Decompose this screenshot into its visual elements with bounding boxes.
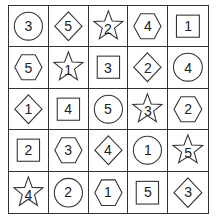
puzzle-grid: 3524151324145322341542153 [8,5,209,214]
grid-cell[interactable]: 1 [49,47,89,88]
grid-cell[interactable]: 5 [9,47,49,88]
cell-number: 4 [168,60,208,76]
grid-cell[interactable]: 2 [168,89,208,130]
cell-number: 3 [9,18,48,34]
cell-number: 2 [9,142,48,158]
cell-number: 5 [9,60,48,76]
grid-cell[interactable]: 2 [128,47,168,88]
grid-cell[interactable]: 5 [49,6,89,47]
cell-number: 3 [49,142,88,158]
grid-cell[interactable]: 3 [9,6,49,47]
grid-cell[interactable]: 4 [168,47,208,88]
cell-number: 2 [49,184,88,200]
grid-cell[interactable]: 5 [128,172,168,213]
grid-cell[interactable]: 1 [9,89,49,130]
grid-cell[interactable]: 5 [168,130,208,171]
cell-number: 1 [89,184,128,200]
cell-number: 3 [168,184,208,200]
grid-cell[interactable]: 5 [89,89,129,130]
cell-number: 4 [9,187,48,203]
cell-number: 1 [128,142,167,158]
cell-number: 3 [128,103,167,119]
grid-cell[interactable]: 3 [168,172,208,213]
cell-number: 4 [128,18,167,34]
cell-number: 2 [128,60,167,76]
grid-cell[interactable]: 1 [168,6,208,47]
grid-cell[interactable]: 4 [49,89,89,130]
cell-number: 1 [168,18,208,34]
cell-number: 4 [49,101,88,117]
cell-number: 1 [49,62,88,78]
grid-cell[interactable]: 1 [89,172,129,213]
cell-number: 5 [168,145,208,161]
cell-number: 2 [89,21,128,37]
cell-number: 5 [128,184,167,200]
cell-number: 2 [168,101,208,117]
cell-number: 3 [89,60,128,76]
grid-cell[interactable]: 2 [49,172,89,213]
grid-cell[interactable]: 3 [49,130,89,171]
cell-number: 5 [89,101,128,117]
grid-cell[interactable]: 1 [128,130,168,171]
grid-cell[interactable]: 3 [128,89,168,130]
grid-cell[interactable]: 4 [89,130,129,171]
cell-number: 5 [49,18,88,34]
grid-cell[interactable]: 4 [128,6,168,47]
grid-cell[interactable]: 2 [89,6,129,47]
cell-number: 4 [89,142,128,158]
grid-cell[interactable]: 4 [9,172,49,213]
cell-number: 1 [9,101,48,117]
grid-cell[interactable]: 3 [89,47,129,88]
grid-cell[interactable]: 2 [9,130,49,171]
